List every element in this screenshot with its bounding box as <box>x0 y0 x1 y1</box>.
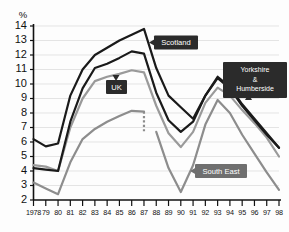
x-tick-label: 98 <box>275 208 283 217</box>
x-tick-label: 84 <box>103 208 111 217</box>
x-tick-label: 90 <box>177 208 185 217</box>
x-tick-label: 88 <box>152 208 160 217</box>
x-tick-label: 87 <box>140 208 148 217</box>
y-tick-label: 13 <box>15 33 27 45</box>
y-tick-label: 4 <box>21 164 27 176</box>
x-tick-label: 95 <box>238 208 246 217</box>
y-tick-label: 5 <box>21 149 27 161</box>
south-east-callout-label: South East <box>202 167 240 176</box>
series-line-south-east <box>156 100 279 192</box>
y-tick-labels: 14 13 12 11 10 9 8 7 6 5 4 3 2 <box>15 19 27 205</box>
x-tick-label: 92 <box>202 208 210 217</box>
x-tick-label: 83 <box>91 208 99 217</box>
y-tick-label: 10 <box>15 77 27 89</box>
x-tick-label: 85 <box>116 208 124 217</box>
x-tick-label: 86 <box>128 208 136 217</box>
unemployment-rate-line-chart: % 14 13 12 11 10 9 8 7 6 5 4 3 2 1978798… <box>0 0 289 232</box>
yorkshire-callout-line1: Yorkshire <box>241 66 270 73</box>
y-tick-label: 6 <box>21 135 27 147</box>
x-tick-label: 89 <box>165 208 173 217</box>
y-tick-label: 3 <box>21 178 27 190</box>
x-tick-label: 81 <box>67 208 75 217</box>
y-tick-label: 9 <box>21 91 27 103</box>
x-tickmarks <box>34 200 280 206</box>
x-tick-label: 94 <box>226 208 234 217</box>
annotation-south-east[interactable]: South East <box>190 164 247 178</box>
series-line-south-east <box>34 111 144 194</box>
y-tick-label: 12 <box>15 48 27 60</box>
scotland-callout-label: Scotland <box>161 38 191 47</box>
yorkshire-callout-line3: Humberside <box>236 85 274 92</box>
figure-root: % 14 13 12 11 10 9 8 7 6 5 4 3 2 1978798… <box>0 0 289 232</box>
x-tick-label: 79 <box>42 208 50 217</box>
y-tick-label: 2 <box>21 193 27 205</box>
y-tick-label: 14 <box>15 19 27 31</box>
x-tick-label: 96 <box>251 208 259 217</box>
x-tick-label: 93 <box>214 208 222 217</box>
y-tick-label: 7 <box>21 120 27 132</box>
x-tick-labels: 1978798081828384858687888990919293949596… <box>26 208 283 217</box>
x-tick-label: 80 <box>54 208 62 217</box>
uk-callout-label: UK <box>111 83 122 92</box>
x-tick-label: 82 <box>79 208 87 217</box>
yorkshire-callout-line2: & <box>253 76 258 83</box>
x-tick-label: 91 <box>189 208 197 217</box>
y-tick-label: 8 <box>21 106 27 118</box>
x-tick-label: 1978 <box>26 208 41 217</box>
y-tick-label: 11 <box>16 62 27 74</box>
annotation-uk[interactable]: UK <box>106 75 127 94</box>
annotation-scotland[interactable]: Scotland <box>149 36 198 50</box>
annotation-yorkshire-humberside[interactable]: Yorkshire & Humberside <box>223 62 287 100</box>
x-tick-label: 97 <box>263 208 271 217</box>
